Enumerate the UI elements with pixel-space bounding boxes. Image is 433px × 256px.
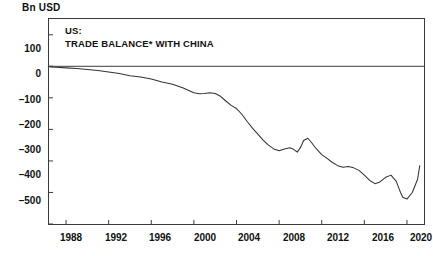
- x-tick-2008: 2008: [283, 232, 305, 243]
- x-tick-1988: 1988: [60, 232, 82, 243]
- x-tick-2000: 2000: [194, 232, 216, 243]
- data-series-line: [50, 67, 420, 199]
- x-tick-2016: 2016: [372, 232, 394, 243]
- x-tick-2012: 2012: [327, 232, 349, 243]
- chart-figure: Bn USD 100 0 –100 –200 –300 –400 –500 19…: [0, 0, 433, 256]
- x-tick-2020: 2020: [410, 232, 432, 243]
- y-axis-tick-marks: [49, 35, 53, 224]
- x-axis-tick-marks: [66, 220, 407, 224]
- x-tick-1992: 1992: [105, 232, 127, 243]
- x-tick-1996: 1996: [149, 232, 171, 243]
- chart-plot-svg: [49, 19, 424, 224]
- x-tick-2004: 2004: [238, 232, 260, 243]
- plot-area: US: TRADE BALANCE* WITH CHINA: [48, 18, 425, 225]
